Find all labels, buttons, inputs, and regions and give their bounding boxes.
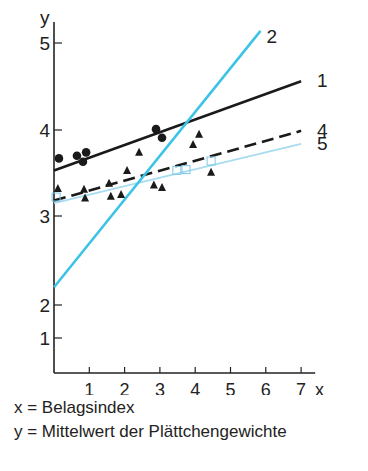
x-tick-label: 4 bbox=[190, 380, 200, 395]
triangle-point bbox=[117, 190, 125, 198]
x-tick-label: 3 bbox=[155, 380, 165, 395]
triangle-point bbox=[158, 183, 166, 191]
y-tick-label: 1 bbox=[39, 328, 50, 349]
circle-point bbox=[158, 133, 167, 142]
series-lines bbox=[54, 31, 301, 287]
chart: yx 123456712345 5412 bbox=[0, 0, 368, 395]
x-tick-label: 6 bbox=[261, 380, 271, 395]
x-definition: x = Belagsindex bbox=[14, 398, 135, 418]
x-tick-label: 7 bbox=[296, 380, 306, 395]
y-tick-label: 5 bbox=[39, 33, 50, 54]
triangle-point bbox=[150, 181, 158, 189]
ticks: 123456712345 bbox=[39, 33, 306, 395]
series-label-4: 4 bbox=[317, 120, 328, 141]
triangle-point bbox=[107, 192, 115, 200]
triangle-point bbox=[54, 184, 62, 192]
series-label-1: 1 bbox=[317, 70, 328, 91]
triangle-point bbox=[105, 179, 113, 187]
series-line-5 bbox=[54, 144, 301, 203]
triangle-point bbox=[189, 140, 197, 148]
x-axis-label: x bbox=[315, 380, 324, 395]
circle-point bbox=[82, 148, 91, 157]
triangle-point bbox=[80, 185, 88, 193]
triangle-point bbox=[123, 166, 131, 174]
triangle-point bbox=[207, 168, 215, 176]
y-definition: y = Mittelwert der Plättchengewichte bbox=[14, 422, 287, 442]
triangle-point bbox=[195, 130, 203, 138]
circle-point bbox=[79, 158, 88, 167]
x-tick-label: 5 bbox=[225, 380, 235, 395]
square-point bbox=[207, 157, 215, 165]
triangle-point bbox=[135, 148, 143, 156]
circle-point bbox=[152, 125, 161, 134]
circle-point bbox=[55, 154, 64, 163]
x-tick-label: 2 bbox=[120, 380, 130, 395]
y-tick-label: 3 bbox=[39, 206, 50, 227]
series-label-2: 2 bbox=[267, 26, 278, 47]
y-tick-label: 4 bbox=[39, 120, 50, 141]
y-axis-label: y bbox=[40, 7, 50, 28]
y-tick-label: 2 bbox=[39, 295, 50, 316]
series-line-1 bbox=[54, 81, 301, 170]
series-line-4 bbox=[54, 131, 301, 201]
x-tick-label: 1 bbox=[84, 380, 94, 395]
